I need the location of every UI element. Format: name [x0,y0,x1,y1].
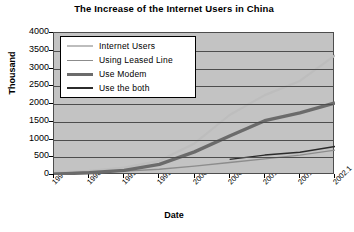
y-axis-title: Thousand [7,23,17,123]
legend-label: Internet Users [99,41,155,51]
y-tick-label: 2000 [3,98,49,107]
legend-swatch [67,73,93,76]
y-tick-label: 3500 [3,45,49,54]
gridline [54,122,333,123]
y-tick-label: 500 [3,151,49,160]
legend-item: Using Leased Line [61,53,195,67]
y-tick-label: 2500 [3,80,49,89]
gridline [54,104,333,105]
y-tick-label: 1000 [3,134,49,143]
legend-item: Internet Users [61,39,195,53]
y-tick-label: 1500 [3,116,49,125]
legend-label: Use Modem [99,69,147,79]
series-line [54,103,335,174]
legend-swatch [67,45,93,47]
gridline [54,140,333,141]
legend-label: Use the both [99,83,150,93]
y-tick-label: 3000 [3,63,49,72]
gridline [54,157,333,158]
legend-item: Use Modem [61,67,195,81]
x-axis-title: Date [0,210,348,220]
chart-legend: Internet UsersUsing Leased LineUse Modem… [60,36,196,98]
legend-swatch [67,87,93,89]
legend-label: Using Leased Line [99,55,173,65]
y-tick-label: 4000 [3,27,49,36]
y-tick-label: 0 [3,169,49,178]
legend-swatch [67,60,93,61]
chart-title: The Increase of the Internet Users in Ch… [0,3,348,14]
legend-item: Use the both [61,81,195,95]
